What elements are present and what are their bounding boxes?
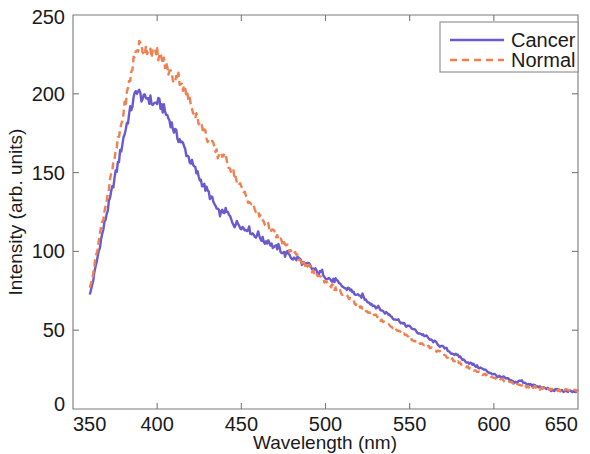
y-tick-label: 50 [43, 319, 65, 341]
x-tick-label: 600 [477, 413, 510, 435]
x-axis-label: Wavelength (nm) [253, 432, 397, 453]
data-series-group [90, 41, 578, 392]
series-line-normal [90, 41, 578, 391]
x-tick-label: 550 [393, 413, 426, 435]
y-axis-tick-labels: 050100150200250 [32, 6, 65, 415]
x-axis-ticks [157, 15, 494, 409]
y-tick-label: 0 [54, 393, 65, 415]
spectrum-chart-figure: 350400450500550600650 050100150200250 Wa… [0, 0, 590, 454]
y-axis-ticks [73, 94, 578, 330]
x-tick-label: 400 [140, 413, 173, 435]
chart-legend[interactable]: Cancer Normal [440, 22, 578, 72]
chart-canvas: 350400450500550600650 050100150200250 Wa… [0, 0, 590, 454]
legend-label-normal: Normal [511, 49, 575, 71]
x-tick-label: 350 [73, 413, 106, 435]
plot-frame [73, 15, 578, 409]
series-line-cancer [90, 90, 578, 392]
y-tick-label: 100 [32, 240, 65, 262]
y-tick-label: 200 [32, 83, 65, 105]
y-axis-label: Intensity (arb. units) [5, 129, 26, 296]
x-tick-label: 650 [545, 413, 578, 435]
legend-label-cancer: Cancer [511, 29, 576, 51]
y-tick-label: 250 [32, 6, 65, 28]
y-tick-label: 150 [32, 162, 65, 184]
